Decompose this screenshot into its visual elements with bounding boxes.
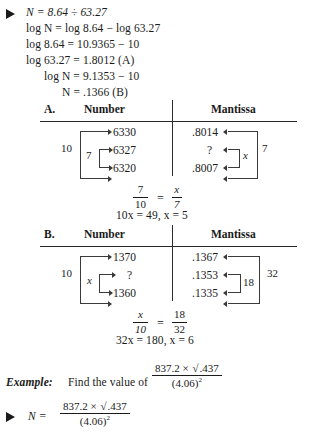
table-a-number-outer-bracket-top <box>80 131 110 132</box>
table-a-mantissa-2: .8007 <box>192 162 218 174</box>
table-b-mantissa-0: .1367 <box>192 251 218 263</box>
table-a-column-divider <box>172 100 173 176</box>
table-b-proportion-right: 18 32 <box>172 309 187 335</box>
derivation-line-6: N = .1366 (B) <box>62 87 128 99</box>
derivation-line-5: log N = 9.1353 − 10 <box>44 71 139 83</box>
table-a-number-outer-bracket-vline <box>80 131 81 178</box>
example-work-fraction-bar <box>60 413 130 414</box>
triangle-bullet-icon-2 <box>6 412 15 422</box>
table-a-number-outer-arrow-top <box>108 129 112 135</box>
table-a-number-2: 6320 <box>113 162 136 174</box>
textbook-page: N = 8.64 ÷ 63.27 log N = log 8.64 − log … <box>0 0 311 434</box>
table-a-col-mantissa: Mantissa <box>211 103 256 115</box>
example-numerator-coefficient: 837.2 × <box>155 362 189 374</box>
table-b-mantissa-inner-arrow-top <box>223 272 227 278</box>
table-a-prop-right-num: x <box>172 184 182 196</box>
radical-glyph: √ <box>192 362 198 374</box>
table-a-solution: 10x = 49, x = 5 <box>116 210 188 222</box>
example-fraction-denominator: (4.06)2 <box>152 377 222 389</box>
table-b-mantissa-inner-arrow-bottom <box>223 290 227 296</box>
table-b-mantissa-1: .1353 <box>192 269 218 281</box>
table-a-mantissa-inner-label: x <box>243 149 248 161</box>
table-a-number-inner-arrow-bottom <box>109 165 113 171</box>
table-b-number-0: 1370 <box>113 251 136 263</box>
table-b-number-outer-bracket-vline <box>80 256 81 303</box>
table-a-number-inner-label: 7 <box>86 149 92 161</box>
table-b-mantissa-outer-bracket-vline <box>259 256 260 303</box>
table-b-proportion-left: x 10 <box>133 309 148 335</box>
table-b-number-inner-arrow-top <box>112 272 116 278</box>
derivation-line-3: log 8.64 = 10.9365 − 10 <box>26 39 139 51</box>
example-work-radicand: .437 <box>107 400 126 412</box>
radical-icon: √ .437 <box>191 362 218 374</box>
table-b-number-inner-arrow-bottom <box>109 290 113 296</box>
table-b-number-outer-bracket-top <box>80 256 110 257</box>
table-a-number-outer-arrow-bottom <box>108 176 112 182</box>
table-a-number-inner-arrow-top <box>109 147 113 153</box>
table-a-mantissa-inner-arrow-top <box>223 147 227 153</box>
table-b-number-inner-bracket-top <box>99 274 113 275</box>
table-a-proportion-equals: = <box>157 191 164 206</box>
example-denominator-exponent: 2 <box>198 376 202 384</box>
table-a-number-outer-label: 10 <box>61 142 72 154</box>
table-a-mantissa-inner-arrow-bottom <box>223 165 227 171</box>
table-b-mantissa-2: .1335 <box>192 287 218 299</box>
table-b-column-divider <box>172 225 173 301</box>
example-work-lhs: N = <box>28 411 47 423</box>
example-prompt: Find the value of <box>68 377 148 389</box>
example-work-denominator: (4.06)2 <box>60 415 130 427</box>
table-a-mantissa-0: .8014 <box>192 126 218 138</box>
table-b-mantissa-inner-bracket-top <box>228 274 241 275</box>
table-b-number-2: 1360 <box>113 287 136 299</box>
table-b-col-mantissa: Mantissa <box>211 228 256 240</box>
table-b-label: B. <box>44 228 55 240</box>
table-a-mantissa-outer-label: 7 <box>262 142 268 154</box>
table-b-number-outer-bracket-bottom <box>80 303 110 304</box>
example-heading: Example: <box>6 377 53 389</box>
table-a-prop-left-num: 7 <box>133 184 148 196</box>
table-a-header-rule <box>40 121 297 122</box>
derivation-line-4: log 63.27 = 1.8012 (A) <box>26 55 134 67</box>
triangle-bullet-icon <box>6 9 15 19</box>
table-a-mantissa-1: ? <box>207 144 212 156</box>
table-b-prop-right-num: 18 <box>172 309 187 321</box>
table-b-number-outer-arrow-bottom <box>108 301 112 307</box>
table-b-mantissa-inner-bracket-vline <box>240 274 241 292</box>
table-a-mantissa-inner-bracket-bottom <box>228 167 240 168</box>
table-b-mantissa-outer-bracket-bottom <box>228 303 260 304</box>
table-a-number-inner-bracket-vline <box>99 149 100 167</box>
table-b-number-inner-bracket-vline <box>99 274 100 292</box>
table-b-solution: 32x = 180, x = 6 <box>116 335 194 347</box>
table-a-col-number: Number <box>84 103 125 115</box>
derivation-line-2: log N = log 8.64 − log 63.27 <box>26 23 160 35</box>
table-b-col-number: Number <box>84 228 125 240</box>
table-b-number-outer-label: 10 <box>61 267 72 279</box>
table-a-mantissa-outer-bracket-top <box>228 131 258 132</box>
table-a-mantissa-outer-bracket-bottom <box>228 178 258 179</box>
example-fraction-numerator: 837.2 × √ .437 <box>152 362 222 374</box>
table-a-mantissa-outer-bracket-vline <box>257 131 258 178</box>
example-work-denominator-exponent: 2 <box>106 414 110 422</box>
table-b-mantissa-inner-bracket-bottom <box>228 292 241 293</box>
example-radicand: .437 <box>199 362 218 374</box>
table-b-mantissa-outer-arrow-top <box>223 254 227 260</box>
table-a-mantissa-outer-arrow-bottom <box>223 176 227 182</box>
table-b-number-outer-arrow-top <box>108 254 112 260</box>
table-b-header-rule <box>40 246 297 247</box>
example-work-denominator-base: (4.06) <box>80 415 107 427</box>
example-fraction: 837.2 × √ .437 (4.06)2 <box>152 362 222 389</box>
example-work-fraction: 837.2 × √ .437 (4.06)2 <box>60 400 130 427</box>
table-b-proportion-equals: = <box>157 316 164 331</box>
table-b-number-1: ? <box>127 269 132 281</box>
table-b-number-inner-label: x <box>87 274 92 286</box>
example-fraction-bar <box>152 375 222 376</box>
table-b-mantissa-outer-bracket-top <box>228 256 260 257</box>
table-a-proportion-left: 7 10 <box>133 184 148 210</box>
table-b-mantissa-outer-arrow-bottom <box>223 301 227 307</box>
derivation-line-1: N = 8.64 ÷ 63.27 <box>26 7 107 19</box>
example-denominator-base: (4.06) <box>172 377 199 389</box>
table-a-proportion-right: x 7 <box>172 184 182 210</box>
table-a-mantissa-inner-bracket-top <box>228 149 240 150</box>
example-work-numerator-coefficient: 837.2 × <box>63 400 97 412</box>
table-a-mantissa-inner-bracket-vline <box>239 149 240 167</box>
